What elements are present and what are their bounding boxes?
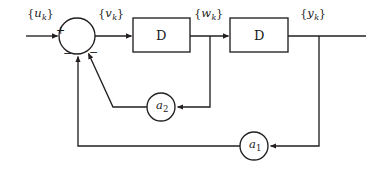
gain-label-a2: a2 [156, 100, 168, 112]
plus-sign: + [56, 25, 65, 36]
delay-block-1-label: D [156, 29, 166, 42]
mid-brace-close: } [216, 6, 223, 20]
input-brace-close: } [47, 6, 54, 20]
figure-canvas: {uk} {vk} {wk} {yk} D D + − − a2 a1 [0, 0, 374, 171]
delay-block-2-label: D [254, 29, 264, 42]
mid-symbol: w [201, 6, 211, 20]
output-signal-label: {yk} [300, 8, 326, 20]
gain-a1-subscript: 1 [256, 143, 261, 153]
mid-subscript: k [211, 13, 216, 22]
input-signal-label: {uk} [27, 8, 54, 20]
error-signal-label: {vk} [98, 8, 124, 20]
error-subscript: k [112, 13, 117, 22]
mid-signal-label: {wk} [194, 8, 223, 20]
minus-sign-left: − [63, 48, 72, 59]
minus-sign-right: − [89, 47, 98, 58]
gain-label-a1: a1 [249, 139, 261, 151]
input-symbol: u [34, 6, 41, 20]
gain-a2-symbol: a [156, 98, 163, 112]
error-symbol: v [105, 6, 112, 20]
input-subscript: k [42, 13, 47, 22]
output-symbol: y [307, 6, 314, 20]
output-subscript: k [314, 13, 319, 22]
output-brace-close: } [319, 6, 326, 20]
feedback-path-a2-output [89, 54, 148, 108]
error-brace-close: } [117, 6, 124, 20]
gain-a2-subscript: 2 [163, 104, 168, 114]
gain-a1-symbol: a [249, 137, 256, 151]
